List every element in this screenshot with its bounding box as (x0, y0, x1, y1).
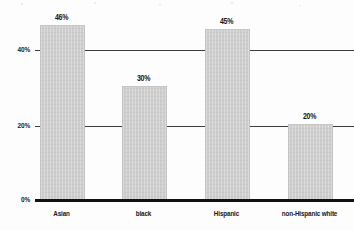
bar-value-hispanic: 45% (209, 17, 244, 26)
bar-value-asian: 46% (44, 13, 79, 22)
category-label-black: black (122, 209, 165, 218)
bar-value-non-hispanic-white: 20% (292, 112, 327, 121)
ytick-label-0: 0% (4, 196, 30, 204)
bar-asian (40, 25, 85, 201)
gridline-40 (42, 50, 354, 51)
plot-area: 40% 20% 0% 46% 30% 45% 20% Asian black H… (0, 0, 354, 230)
bar-value-black: 30% (126, 74, 161, 83)
category-label-asian: Asian (40, 209, 83, 218)
ytick-label-20: 20% (4, 122, 30, 130)
bar-hispanic (205, 29, 250, 201)
bar-chart: 40% 20% 0% 46% 30% 45% 20% Asian black H… (0, 0, 354, 230)
bar-black (122, 86, 167, 201)
category-label-non-hispanic-white: non-Hispanic white (275, 209, 343, 218)
ytick-label-40: 40% (4, 46, 30, 54)
bar-non-hispanic-white (288, 124, 333, 201)
x-axis-baseline (35, 199, 354, 202)
category-label-hispanic: Hispanic (205, 209, 248, 218)
